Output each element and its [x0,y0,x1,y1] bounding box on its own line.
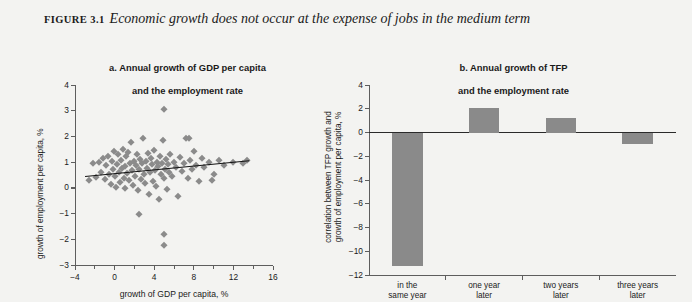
panel-b-y-axis-title: correlation between TFP growth and growt… [324,82,343,272]
scatter-point [185,174,191,180]
panel-b-y-tick [365,132,369,133]
panel-a-heading-line2: and the employment rate [80,85,295,97]
bar [622,133,653,145]
scatter-point [121,185,127,191]
panel-a-x-tick [114,266,115,270]
scatter-point [136,211,142,217]
panel-a-y-tick-label: 4 [45,80,69,90]
panel-a-x-tick [75,266,76,270]
scatter-point [156,195,162,201]
panel-a-y-axis-title: growth of employment per capita, % [36,128,46,259]
category-label-line2: same year [369,291,446,301]
panel-a-x-minor-tick [253,266,254,269]
panel-a-y-tick-label: −3 [45,260,69,270]
scatter-point [160,136,166,142]
scatter-point [198,155,204,161]
panel-a-x-minor-tick [174,266,175,269]
panel-b-y-tick [365,227,369,228]
scatter-point [142,180,148,186]
panel-a-y-tick-label: 2 [45,131,69,141]
panel-b-y-tick [365,275,369,276]
panel-a-y-tick [71,187,75,188]
panel-b-category-label: three yearslater [599,281,676,300]
scatter-point [177,154,183,160]
scatter-point [161,242,167,248]
scatter-point [128,139,134,145]
scatter-point [140,134,146,140]
panel-a-y-tick [71,136,75,137]
panel-b-category-label: two yearslater [523,281,600,300]
scatter-point [164,186,170,192]
panel-b-y-tick [365,203,369,204]
panel-a-x-tick [273,266,274,270]
panel-b-category-label: in thesame year [369,281,446,300]
scatter-point [208,177,214,183]
panel-a-x-tick-label: 8 [180,272,208,282]
panel-a-y-tick [71,213,75,214]
panel-a-x-axis-title: growth of GDP per capita, % [120,289,229,299]
panel-b-category-label: one yearlater [446,281,523,300]
scatter-point [146,191,152,197]
scatter-point [169,173,175,179]
panel-a-y-tick-label: 0 [45,182,69,192]
scatter-point [101,176,107,182]
scatter-point [215,156,221,162]
panel-a-y-tick [71,85,75,86]
panel-b-heading: b. Annual growth of TFP and the employme… [406,50,621,108]
scatter-point [161,231,167,237]
panel-a-y-tick [71,110,75,111]
scatter-point [179,168,185,174]
panel-b-category-separator [599,276,600,280]
panel-b-y-tick [365,180,369,181]
panel-a-x-tick-label: 4 [140,272,168,282]
scatter-point [191,147,197,153]
scatter-point [102,162,108,168]
category-label-line2: later [599,291,676,301]
panel-a-y-axis [75,85,76,265]
panel-a-x-tick [233,266,234,270]
scatter-point [125,149,131,155]
scatter-point [151,147,157,153]
panel-a-x-minor-tick [94,266,95,269]
scatter-point [130,182,136,188]
panel-a-x-tick-label: −4 [61,272,89,282]
figure-root: FIGURE 3.1Economic growth does not occur… [0,0,692,302]
scatter-point [86,177,92,183]
category-label-line2: later [523,291,600,301]
figure-number: FIGURE 3.1 [44,14,105,25]
bar [469,108,500,133]
panel-b-y-tick [365,156,369,157]
panel-a-y-tick [71,239,75,240]
panel-a-x-tick-label: 12 [219,272,247,282]
panel-b-heading-line1: b. Annual growth of TFP [406,62,621,74]
panel-a-x-tick [154,266,155,270]
panel-b-category-separator [445,276,446,280]
panel-a-x-tick [193,266,194,270]
panel-a-heading-line1: a. Annual growth of GDP per capita [80,62,295,74]
panel-a-x-tick-label: 16 [259,272,287,282]
figure-title: FIGURE 3.1Economic growth does not occur… [44,11,530,27]
category-label-line2: later [446,291,523,301]
scatter-point [135,187,141,193]
category-label-line1: in the [369,281,446,291]
scatter-point [196,178,202,184]
scatter-point [161,106,167,112]
panel-b-y-tick [365,108,369,109]
category-label-line1: two years [523,281,600,291]
bar [546,118,577,132]
panel-a-y-tick-label: 3 [45,105,69,115]
panel-b-y-axis [369,85,370,275]
panel-a-y-tick-label: 1 [45,157,69,167]
panel-a-y-tick-label: −1 [45,208,69,218]
category-label-line1: three years [599,281,676,291]
bar [392,133,423,266]
panel-a-y-tick-label: −2 [45,234,69,244]
category-label-line1: one year [446,281,523,291]
panel-b-category-separator [522,276,523,280]
panel-a-x-minor-tick [134,266,135,269]
panel-b-y-tick [365,85,369,86]
panel-a-heading: a. Annual growth of GDP per capita and t… [80,50,295,108]
panel-b-y-tick [365,251,369,252]
figure-caption: Economic growth does not occur at the ex… [105,11,531,26]
scatter-point [161,175,167,181]
